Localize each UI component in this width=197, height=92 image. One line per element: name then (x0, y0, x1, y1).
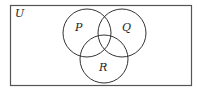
set-r-label: R (98, 61, 107, 74)
universe-label: U (15, 7, 25, 20)
set-p-circle (63, 9, 111, 57)
set-p-label: P (74, 21, 83, 34)
set-q-label: Q (122, 21, 131, 34)
venn-diagram: U P Q R (0, 0, 197, 92)
set-r-circle (80, 35, 128, 83)
